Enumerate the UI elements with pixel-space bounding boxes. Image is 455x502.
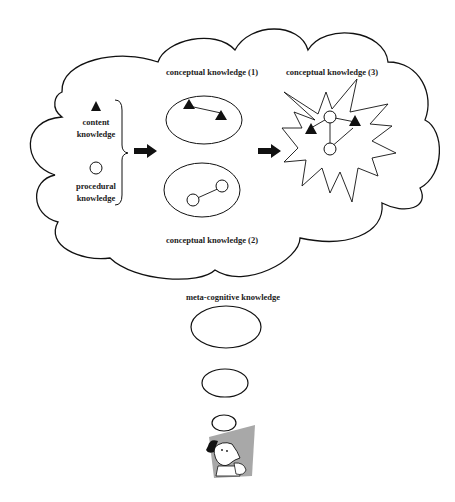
content-label-2: knowledge xyxy=(77,129,116,139)
conceptual-1-label: conceptual knowledge (1) xyxy=(166,67,258,77)
thought-bubble-medium xyxy=(202,369,248,397)
procedural-label-1: procedural xyxy=(76,181,117,191)
procedural-label-2: knowledge xyxy=(77,193,116,203)
conceptual-2-label: conceptual knowledge (2) xyxy=(166,235,258,245)
content-label-1: content xyxy=(83,117,110,127)
circle-icon xyxy=(216,180,228,192)
thought-bubble-large xyxy=(191,306,261,348)
conceptual-3-label: conceptual knowledge (3) xyxy=(286,67,378,77)
circle-icon xyxy=(187,194,199,206)
circle-icon xyxy=(90,162,102,174)
conceptual-1-ellipse xyxy=(166,96,242,144)
circle-icon xyxy=(324,143,336,155)
thinking-person-icon xyxy=(206,425,255,478)
thought-bubble-small xyxy=(212,415,236,431)
meta-cognitive-label: meta-cognitive knowledge xyxy=(186,292,280,302)
circle-icon xyxy=(324,111,336,123)
conceptual-2-ellipse xyxy=(164,163,240,217)
diagram-canvas: content knowledge procedural knowledge c… xyxy=(0,0,455,502)
